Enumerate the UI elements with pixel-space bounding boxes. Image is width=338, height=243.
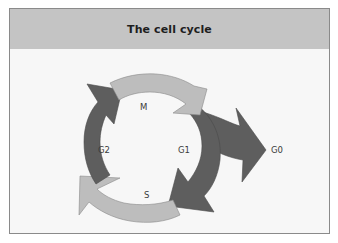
- s-arrow: [79, 176, 180, 222]
- label-g0: G0: [271, 145, 283, 155]
- m-arrow: [110, 74, 207, 115]
- label-g2: G2: [98, 145, 110, 155]
- label-s: S: [144, 190, 149, 200]
- label-g1: G1: [178, 145, 190, 155]
- label-m: M: [140, 102, 147, 112]
- cell-cycle-diagram: M G2 G1 S G0: [0, 0, 338, 243]
- g2-arrow: [84, 84, 122, 184]
